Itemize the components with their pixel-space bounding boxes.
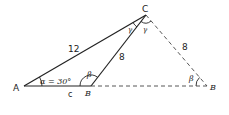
gamma2-label: γ	[143, 26, 148, 34]
gamma2-arc	[141, 21, 151, 23]
beta1-label: β	[86, 70, 92, 79]
vertex-C-label: C	[142, 4, 148, 14]
side-CB1	[91, 15, 146, 86]
beta2-label: β	[188, 74, 194, 83]
side-AC-label: 12	[68, 44, 79, 54]
gamma1-arc	[133, 23, 137, 28]
triangle-diagram: A C B B 12 8 8 c α = 30° β γ γ β	[0, 0, 229, 115]
side-CB2-label: 8	[182, 42, 188, 52]
side-AB-label: c	[68, 90, 72, 99]
beta2-arc	[196, 78, 200, 87]
vertex-B2-label: B	[209, 83, 216, 92]
side-CB1-label: 8	[119, 52, 125, 62]
alpha-label: α = 30°	[40, 77, 71, 86]
vertex-A-label: A	[13, 83, 20, 93]
vertex-B1-label: B	[84, 89, 91, 98]
side-CB2-dashed	[146, 15, 207, 86]
